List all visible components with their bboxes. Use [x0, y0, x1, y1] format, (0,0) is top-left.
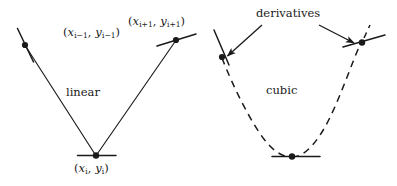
x-subscript: i+1 — [139, 20, 153, 29]
derivatives-annotation-arrows — [228, 25, 355, 56]
derivatives-arrow-right — [319, 25, 354, 43]
paren-close: ) — [181, 14, 186, 28]
cubic-curve-left-branch — [222, 58, 292, 157]
label-linear: linear — [66, 87, 100, 99]
y-subscript: i+1 — [167, 20, 181, 29]
label-point-i-plus-1: (xi+1, yi+1) — [128, 16, 185, 28]
diagram-canvas — [0, 0, 397, 186]
comma: , — [153, 14, 157, 28]
label-cubic: cubic — [266, 85, 297, 97]
y-variable: y — [160, 14, 167, 28]
node-dot-linear-prev — [22, 42, 28, 48]
linear-segment-left — [26, 46, 96, 155]
linear-segment-right — [97, 41, 176, 155]
node-dot-cubic-prev — [219, 54, 225, 60]
y-variable: y — [95, 161, 102, 175]
linear-panel — [18, 29, 197, 159]
cubic-curve-tail — [364, 25, 370, 38]
node-dot-linear-mid — [93, 152, 99, 158]
node-dot-cubic-next — [359, 39, 365, 45]
derivatives-arrow-left — [228, 25, 263, 56]
comma: , — [88, 25, 92, 39]
interpolation-diagram: (xi−1, yi−1) (xi+1, yi+1) (xi, yi) linea… — [0, 0, 397, 186]
label-point-i-minus-1: (xi−1, yi−1) — [63, 27, 120, 39]
paren-close: ) — [104, 161, 109, 175]
node-dot-linear-next — [173, 37, 179, 43]
cubic-curve-right-branch — [292, 45, 360, 157]
paren-close: ) — [116, 25, 121, 39]
node-dot-cubic-mid — [289, 153, 295, 159]
label-point-i: (xi, yi) — [74, 163, 109, 175]
y-subscript: i−1 — [102, 31, 116, 40]
comma: , — [88, 161, 92, 175]
label-derivatives: derivatives — [256, 8, 320, 20]
x-subscript: i−1 — [74, 31, 88, 40]
y-variable: y — [95, 25, 102, 39]
